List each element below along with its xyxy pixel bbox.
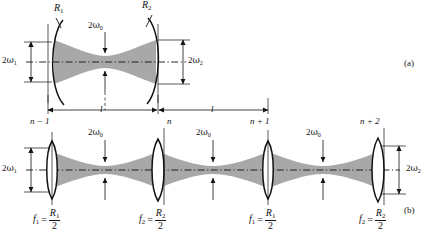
panel-b-tag: (b)	[404, 205, 415, 215]
length-label-left: l	[100, 105, 103, 114]
length-label-right: l	[211, 105, 214, 114]
panel-a-group	[24, 15, 268, 114]
waist-diameter-label-b-2: 2ω0	[196, 128, 211, 138]
lens-n-label: n	[167, 117, 172, 126]
spot-size-left-label-a: 2ω1	[2, 56, 17, 66]
focal-formula-lens-1: f1 = R1 2	[33, 208, 60, 232]
lens-n-plus-1-label: n + 1	[250, 117, 270, 126]
focal-formula-lens-3: f1 = R1 2	[249, 208, 276, 232]
lens-n-plus-2-label: n + 2	[360, 117, 380, 126]
lens-n-plus-2-shape[interactable]	[372, 138, 384, 202]
waist-diameter-label-a: 2ω0	[88, 21, 103, 31]
lens-n-minus-1-label: n − 1	[30, 117, 50, 126]
mirror-left-label: R1	[54, 3, 64, 15]
waist-diameter-label-b-1: 2ω0	[88, 128, 103, 138]
panel-a-tag: (a)	[404, 58, 414, 68]
spot-size-left-label-b: 2ω1	[2, 164, 17, 174]
mirror-right-label: R2	[142, 0, 152, 12]
spot-size-right-label-a: 2ω2	[188, 56, 203, 66]
optics-figure: R1 R2 2ω0 2ω1 2ω2 l l (a) n − 1 n n + 1 …	[0, 0, 432, 240]
waist-diameter-label-b-3: 2ω0	[306, 128, 321, 138]
panel-b-group	[24, 128, 406, 205]
lens-n-shape[interactable]	[152, 139, 164, 201]
focal-formula-lens-2: f2 = R2 2	[139, 208, 166, 232]
focal-formula-lens-4: f2 = R2 2	[359, 208, 386, 232]
spot-size-right-label-b: 2ω2	[406, 164, 421, 174]
